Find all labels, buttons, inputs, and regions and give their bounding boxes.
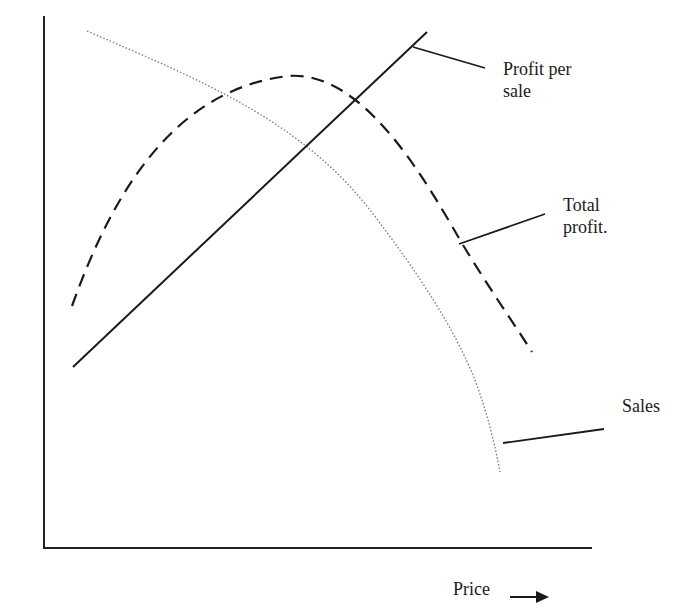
- profit-per-sale-label: Profit per sale: [503, 58, 571, 102]
- sales-leader: [503, 429, 604, 443]
- total-profit-curve: [72, 76, 532, 352]
- diagram-canvas: [0, 0, 680, 616]
- right-arrow-icon: [510, 591, 549, 603]
- profit-per-sale-line: [73, 32, 427, 367]
- x-axis-label: Price: [453, 578, 490, 600]
- sales-curve: [87, 31, 500, 472]
- profit-per-sale-leader: [413, 47, 485, 68]
- total-profit-leader: [459, 214, 545, 244]
- total-profit-label: Total profit.: [563, 194, 608, 238]
- sales-label: Sales: [622, 395, 660, 417]
